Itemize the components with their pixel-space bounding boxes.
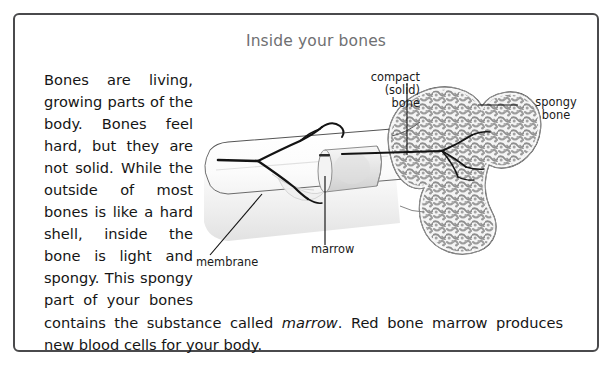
label-marrow: marrow: [311, 243, 371, 256]
body-paragraph: Bones are living, growing parts of the b…: [44, 69, 563, 356]
bone-diagram-page: Inside your bones Bones are living, grow…: [0, 0, 614, 378]
marrow-emphasis: marrow: [282, 314, 338, 331]
page-title: Inside your bones: [0, 32, 614, 50]
label-compact-bone: compact (solid) bone: [340, 71, 420, 111]
label-spongy-bone: spongy bone: [521, 96, 591, 122]
label-membrane: membrane: [196, 256, 272, 269]
